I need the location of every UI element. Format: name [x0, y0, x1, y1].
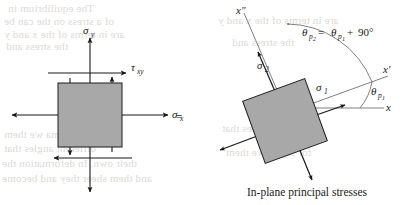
- equals-sign: =: [176, 110, 182, 122]
- sigma-1-symbol: σ: [316, 81, 322, 93]
- x-prime-axis-label: x′: [382, 63, 391, 75]
- sigma-y-subscript: y: [90, 30, 95, 39]
- sigma-y-label: σ y: [83, 24, 95, 39]
- theta-relation-equation: θ p 2 = θ p 1 + 90°: [302, 26, 373, 42]
- sigma-2-subscript: 2: [265, 65, 269, 74]
- theta-p1-label: θ p 1: [371, 85, 385, 101]
- equation-value: 90°: [358, 26, 373, 38]
- tau-xy-label: τ xy: [131, 61, 144, 76]
- stress-element-square: [58, 83, 122, 147]
- tau-xy-symbol: τ: [131, 61, 136, 73]
- figure-canvas: The equilibrium in of a stress on the ca…: [0, 0, 409, 205]
- equation-equals: =: [318, 26, 324, 38]
- x-axis-label: x: [385, 101, 391, 113]
- principal-element-square: [243, 79, 328, 164]
- sigma-y-symbol: σ: [83, 24, 89, 36]
- sigma-1-subscript: 1: [324, 87, 328, 96]
- x-double-prime-axis-label: x″: [235, 4, 246, 16]
- left-stress-element-group: σ y σ x τ xy: [12, 24, 184, 192]
- equation-lhs-subsubscript: 2: [313, 36, 316, 42]
- right-stress-element-group: x x′ x″ σ 1 σ 2 θ p 1 θ p 2: [220, 4, 391, 199]
- equation-rhs-subsubscript: 1: [342, 36, 345, 42]
- equation-plus: +: [347, 26, 353, 38]
- stress-transformation-figure: σ y σ x τ xy =: [0, 0, 409, 205]
- theta-p1-subsubscript: 1: [382, 95, 385, 101]
- theta-p1-symbol: θ: [371, 85, 377, 97]
- tau-xy-subscript: xy: [136, 67, 144, 76]
- sigma-1-label: σ 1: [316, 81, 328, 96]
- figure-caption: In-plane principal stresses: [247, 186, 368, 199]
- sigma-2-symbol: σ: [257, 59, 263, 71]
- equation-rhs-symbol: θ: [331, 26, 337, 38]
- equation-lhs-symbol: θ: [302, 26, 308, 38]
- sigma-2-label: σ 2: [257, 59, 269, 74]
